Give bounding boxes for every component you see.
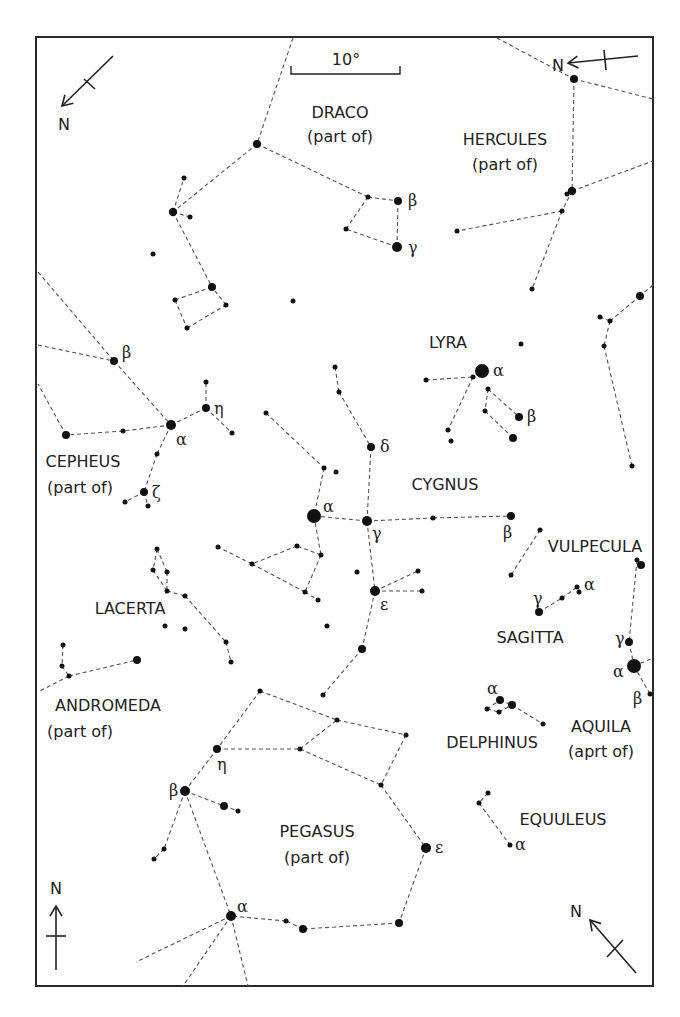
star (162, 847, 167, 852)
star (507, 512, 515, 520)
star (208, 283, 216, 291)
constellation-line (532, 211, 562, 289)
star (355, 570, 360, 575)
star (497, 710, 502, 715)
constellation-line (314, 516, 367, 521)
star (471, 375, 476, 380)
constellation-line (305, 555, 321, 592)
star (325, 624, 330, 629)
north-arrow-icon: N (552, 50, 638, 75)
star (337, 390, 342, 395)
constellation-line (69, 660, 137, 676)
constellation-line (62, 645, 63, 666)
star (648, 692, 653, 697)
star (188, 215, 193, 220)
constellation-line (574, 79, 653, 99)
constellation-line (562, 587, 577, 598)
star-designation-label: β (122, 343, 131, 362)
star (335, 718, 340, 723)
star (449, 439, 454, 444)
star (299, 925, 307, 933)
scale-bar: 10° (291, 50, 400, 74)
constellation-name: SAGITTA (496, 628, 563, 647)
star (424, 378, 429, 383)
constellation-line (231, 916, 286, 921)
constellation-line (604, 346, 632, 466)
star (334, 470, 339, 475)
constellation-name: DELPHINUS (446, 733, 538, 752)
star (224, 640, 229, 645)
constellation-lines (38, 38, 653, 986)
star (151, 568, 156, 573)
star (366, 195, 371, 200)
north-label: N (50, 879, 62, 898)
constellation-line (335, 367, 339, 392)
star-designation-label: β (169, 781, 178, 800)
star (420, 589, 425, 594)
constellation-name: EQUULEUS (519, 810, 606, 829)
constellation-line (368, 197, 398, 201)
constellation-line (183, 916, 231, 986)
star (515, 413, 523, 421)
star (379, 783, 384, 788)
constellation-line (381, 735, 406, 785)
star (535, 608, 543, 616)
star (416, 569, 421, 574)
star (303, 590, 308, 595)
constellation-subtitle: (part of) (284, 848, 350, 867)
constellation-line (257, 144, 368, 197)
star-designation-label: β (633, 689, 642, 708)
star (291, 299, 296, 304)
constellation-line (38, 676, 69, 692)
star (577, 590, 582, 595)
constellation-name: DRACO (311, 103, 368, 122)
star (180, 786, 190, 796)
constellation-line (488, 389, 519, 417)
constellation-line (485, 389, 488, 411)
star (560, 596, 565, 601)
star (155, 452, 160, 457)
star (598, 315, 603, 320)
star (395, 919, 403, 927)
constellation-line (66, 431, 123, 435)
star (321, 693, 326, 698)
star-designation-label: α (584, 575, 595, 594)
constellation-line (512, 705, 543, 724)
constellation-line (397, 201, 398, 247)
star (151, 252, 156, 257)
constellation-subtitle: (part of) (472, 155, 538, 174)
star (140, 488, 148, 496)
star-designation-label: α (176, 430, 187, 449)
star (253, 140, 261, 148)
star-designation-label: η (214, 399, 224, 418)
constellation-line (114, 361, 171, 425)
star (431, 516, 436, 521)
constellation-line (572, 161, 653, 191)
star (485, 707, 490, 712)
star (67, 674, 72, 679)
star (344, 227, 349, 232)
star (367, 443, 375, 451)
constellation-name: ANDROMEDA (55, 696, 161, 715)
star (298, 747, 303, 752)
star (519, 342, 524, 347)
star (322, 466, 327, 471)
star (477, 801, 482, 806)
constellation-line (426, 377, 473, 380)
constellation-subtitle: (part of) (47, 478, 113, 497)
star (230, 431, 235, 436)
star (627, 659, 641, 673)
scale-bar-label: 10° (332, 50, 360, 69)
constellation-line (175, 287, 212, 300)
star (446, 428, 451, 433)
constellation-line (399, 848, 426, 923)
star (236, 809, 241, 814)
chart-frame (36, 37, 653, 986)
constellation-line (448, 377, 473, 430)
constellation-line (218, 547, 252, 564)
star (509, 434, 517, 442)
constellation-line (226, 642, 231, 662)
constellation-line (185, 596, 226, 642)
north-label: N (58, 115, 70, 134)
star-designation-label: α (613, 662, 624, 681)
